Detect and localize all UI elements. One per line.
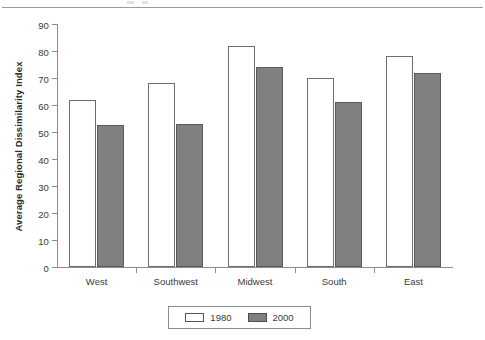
- x-axis-label-west: West: [57, 276, 136, 287]
- x-axis-tick-mark: [374, 268, 375, 273]
- y-axis-tick: 80: [57, 51, 62, 52]
- bar-group: [386, 24, 441, 267]
- bar-group: [148, 24, 203, 267]
- y-axis-tick-label: 30: [38, 181, 49, 192]
- y-axis-tick-mark: [52, 105, 57, 106]
- y-axis-tick-mark: [52, 78, 57, 79]
- legend-swatch-2000-icon: [248, 313, 267, 322]
- y-axis-tick-label: 70: [38, 73, 49, 84]
- y-axis-tick-mark: [52, 240, 57, 241]
- y-axis-tick-mark: [52, 159, 57, 160]
- y-axis-tick-label: 10: [38, 235, 49, 246]
- bar-south-1980: [307, 78, 334, 267]
- bar-south-2000: [335, 102, 362, 267]
- y-axis-tick-mark: [52, 186, 57, 187]
- x-axis-label-east: East: [374, 276, 453, 287]
- y-axis-tick: 70: [57, 78, 62, 79]
- x-axis-tick-mark: [295, 268, 296, 273]
- y-axis-tick-label: 60: [38, 100, 49, 111]
- scan-artifact: [127, 1, 134, 4]
- y-axis-tick: 10: [57, 240, 62, 241]
- x-axis-line: [57, 267, 453, 268]
- y-axis-tick-label: 90: [38, 19, 49, 30]
- y-axis-tick-mark: [52, 51, 57, 52]
- y-axis-tick-mark: [52, 24, 57, 25]
- legend-label-1980: 1980: [210, 312, 231, 323]
- x-axis-tick-mark: [215, 268, 216, 273]
- y-axis-tick: 40: [57, 159, 62, 160]
- bar-midwest-2000: [256, 67, 283, 267]
- x-axis-label-south: South: [295, 276, 374, 287]
- legend-entry-2000: 2000: [248, 312, 294, 323]
- bar-west-2000: [97, 125, 124, 267]
- y-axis-tick-mark: [52, 213, 57, 214]
- x-axis-tick-mark: [136, 268, 137, 273]
- x-axis-label-midwest: Midwest: [215, 276, 294, 287]
- page-top-rule: [2, 7, 483, 8]
- chart-legend: 1980 2000: [168, 306, 311, 329]
- y-axis-tick: 20: [57, 213, 62, 214]
- y-axis-tick-mark: [52, 267, 57, 268]
- legend-entry-1980: 1980: [185, 312, 231, 323]
- plot-area: 9080706050403020100 WestSouthwestMidwest…: [57, 24, 453, 268]
- bar-west-1980: [69, 100, 96, 267]
- y-axis-tick: 30: [57, 186, 62, 187]
- y-axis-line: [57, 24, 58, 268]
- y-axis-tick: 50: [57, 132, 62, 133]
- legend-swatch-1980-icon: [185, 313, 204, 322]
- y-axis-tick: 90: [57, 24, 62, 25]
- bar-southwest-2000: [176, 124, 203, 267]
- y-axis-tick: 0: [57, 267, 62, 268]
- y-axis-tick-label: 80: [38, 46, 49, 57]
- bar-group: [228, 24, 283, 267]
- bar-east-1980: [386, 56, 413, 267]
- y-axis-title-label: Average Regional Dissimilarity Index: [13, 61, 24, 231]
- y-axis-tick-label: 0: [44, 262, 49, 273]
- scan-artifact: [142, 1, 148, 4]
- bar-group: [69, 24, 124, 267]
- bar-chart-figure: Average Regional Dissimilarity Index 908…: [0, 0, 485, 340]
- bar-midwest-1980: [228, 46, 255, 267]
- bar-group: [307, 24, 362, 267]
- x-axis-label-southwest: Southwest: [136, 276, 215, 287]
- y-axis-title: Average Regional Dissimilarity Index: [11, 24, 25, 268]
- y-axis-tick: 60: [57, 105, 62, 106]
- y-axis-tick-label: 20: [38, 208, 49, 219]
- y-axis-tick-label: 40: [38, 154, 49, 165]
- legend-label-2000: 2000: [273, 312, 294, 323]
- y-axis-tick-label: 50: [38, 127, 49, 138]
- bar-southwest-1980: [148, 83, 175, 267]
- bar-east-2000: [414, 73, 441, 267]
- y-axis-tick-mark: [52, 132, 57, 133]
